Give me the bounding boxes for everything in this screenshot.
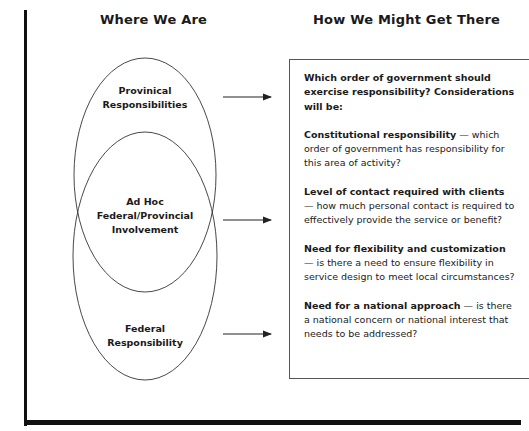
consideration-title: Constitutional responsibility [304, 129, 456, 140]
label-line: Ad Hoc [75, 195, 215, 209]
considerations-box: Which order of government should exercis… [289, 59, 529, 379]
consideration-national: Need for a national approach — is there … [304, 299, 516, 342]
label-line: Federal [75, 322, 215, 336]
label-line: Responsibilities [75, 98, 215, 112]
consideration-title: Level of contact required with clients [304, 186, 504, 197]
label-line: Responsibility [75, 336, 215, 350]
label-adhoc: Ad Hoc Federal/Provincial Involvement [75, 195, 215, 237]
consideration-title: Need for flexibility and customization [304, 243, 506, 254]
consideration-text: — is there a need to ensure flexibility … [304, 257, 515, 282]
label-federal: Federal Responsibility [75, 322, 215, 350]
label-line: Provinical [75, 84, 215, 98]
consideration-flexibility: Need for flexibility and customization —… [304, 242, 516, 285]
intro-text: Which order of government should exercis… [304, 72, 514, 112]
consideration-text: — how much personal contact is required … [304, 200, 514, 225]
consideration-title: Need for a national approach [304, 300, 461, 311]
label-line: Involvement [75, 223, 215, 237]
consideration-contact: Level of contact required with clients —… [304, 185, 516, 228]
box-intro: Which order of government should exercis… [304, 71, 516, 114]
consideration-constitutional: Constitutional responsibility — which or… [304, 128, 516, 171]
label-line: Federal/Provincial [75, 209, 215, 223]
label-provincial: Provinical Responsibilities [75, 84, 215, 112]
